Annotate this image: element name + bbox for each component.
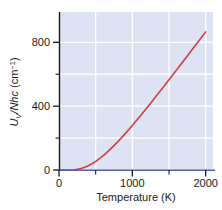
y-axis-title-units-open: (cm — [8, 70, 20, 91]
y-axis-title-units-exponent: −1 — [8, 61, 17, 70]
y-tick-label: 0 — [44, 164, 50, 176]
vibrational-energy-line-chart: 0400800 010002000 Temperature (K) UV/Nhc… — [0, 0, 222, 210]
chart-figure: 0400800 010002000 Temperature (K) UV/Nhc… — [0, 0, 222, 210]
x-tick-label: 0 — [56, 177, 62, 189]
svg-text:UV/Nhc (cm−1): UV/Nhc (cm−1) — [8, 57, 23, 126]
x-tick-label: 1000 — [120, 177, 144, 189]
y-axis-title: UV/Nhc (cm−1) — [8, 57, 23, 126]
y-axis-title-denominator: Nhc — [8, 91, 20, 111]
plot-background — [59, 12, 213, 170]
x-axis-tick-labels: 010002000 — [56, 177, 218, 189]
y-tick-label: 800 — [32, 36, 50, 48]
x-tick-label: 2000 — [193, 177, 217, 189]
y-axis-title-symbol: U — [8, 119, 20, 127]
y-axis-title-units-close: ) — [8, 57, 20, 61]
x-axis-title: Temperature (K) — [96, 191, 175, 203]
y-axis-tick-labels: 0400800 — [32, 36, 50, 176]
y-axis-ticks — [53, 42, 60, 170]
y-tick-label: 400 — [32, 100, 50, 112]
